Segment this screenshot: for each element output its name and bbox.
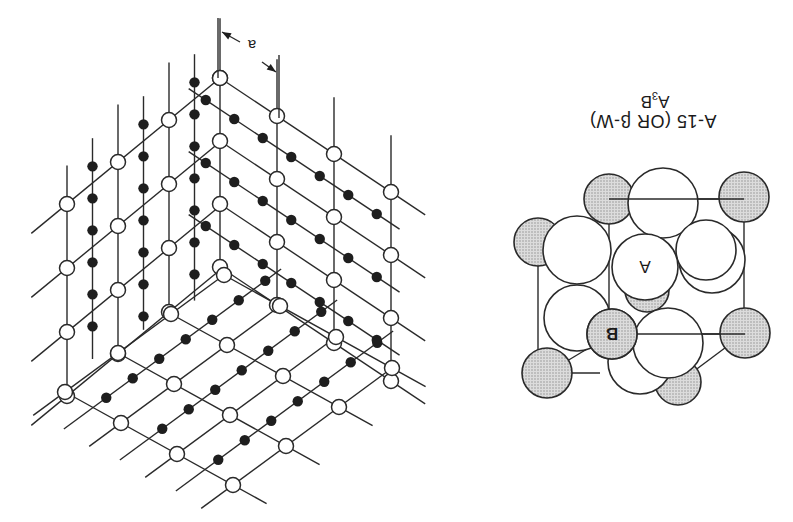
b-atom-node <box>111 283 126 298</box>
b-atom-node <box>162 177 177 192</box>
b-atom-node <box>213 134 228 149</box>
formula-subscript: 3 <box>652 90 658 102</box>
b-atom-node <box>270 172 285 187</box>
a-atom-dot <box>87 321 97 331</box>
a-atom-dot <box>319 377 329 387</box>
b-atom-node <box>279 439 294 454</box>
b-atom-node <box>384 311 399 326</box>
a-atom-dot <box>87 161 97 171</box>
a-atom-dot <box>316 307 326 317</box>
a-atom-dot <box>346 357 356 367</box>
a-atom-dot <box>138 215 148 225</box>
a-atom-dot <box>138 183 148 193</box>
b-atom-node <box>167 377 182 392</box>
a-chain-line <box>120 300 337 460</box>
a-atom-dot <box>207 315 217 325</box>
a-atom-dot <box>258 133 268 143</box>
a-atom-dot <box>138 247 148 257</box>
a-atom-dot <box>184 404 194 414</box>
b-atom-node <box>164 307 179 322</box>
b-atom-node <box>223 408 238 423</box>
a-atom-dot <box>229 177 239 187</box>
a-atom-dot <box>229 240 239 250</box>
formula-b: B <box>641 92 652 111</box>
a-atom-dot <box>343 253 353 263</box>
a-atom-dot <box>189 77 199 87</box>
a-atom-dot <box>290 326 300 336</box>
a-atom-dot <box>189 109 199 119</box>
a-atom-dot <box>263 346 273 356</box>
left-face-row-line <box>31 206 220 361</box>
b-atom-sphere <box>719 172 769 222</box>
b-atom-node <box>162 113 177 128</box>
b-atom-node <box>60 325 75 340</box>
a-atom-dot <box>229 114 239 124</box>
b-atom-sphere <box>720 308 770 358</box>
sphere-label: A <box>639 257 651 276</box>
a-atom-dot <box>258 259 268 269</box>
b-atom-sphere <box>522 348 572 398</box>
a-atom-dot <box>286 215 296 225</box>
a-atom-dot <box>260 276 270 286</box>
structure-title: A-15 (OR β-W) <box>558 110 748 132</box>
a-atom-dot <box>210 385 220 395</box>
a-atom-dot <box>87 225 97 235</box>
sphere-packing-model: ABB <box>514 168 770 405</box>
lattice-parameter-scale-bar: a <box>218 18 279 118</box>
b-atom-node <box>384 185 399 200</box>
formula-a: A <box>658 92 669 111</box>
a-atom-dot <box>372 209 382 219</box>
b-atom-node <box>270 235 285 250</box>
sphere-label-b: B <box>606 324 618 343</box>
b-atom-node <box>276 369 291 384</box>
b-atom-node <box>111 155 126 170</box>
a-atom-dot <box>154 354 164 364</box>
b-atom-node <box>114 416 129 431</box>
a-atom-dot <box>315 171 325 181</box>
a-atom-dot <box>293 396 303 406</box>
a-atom-dot <box>157 424 167 434</box>
a-atom-dot <box>286 278 296 288</box>
a-atom-dot <box>87 193 97 203</box>
a-atom-dot <box>189 173 199 183</box>
a-atom-dot <box>237 365 247 375</box>
b-atom-node <box>162 241 177 256</box>
a-atom-dot <box>87 289 97 299</box>
a-atom-dot <box>189 141 199 151</box>
a-atom-dot <box>87 257 97 267</box>
a-atom-dot <box>138 119 148 129</box>
a-atom-sphere <box>543 216 611 284</box>
figure-canvas: a ABB A3B A-15 (OR β-W) <box>0 0 793 522</box>
a-atom-dot <box>201 95 211 105</box>
a-atom-sphere <box>633 308 703 378</box>
b-atom-node <box>327 273 342 288</box>
a-atom-sphere <box>676 220 736 280</box>
a-atom-dot <box>372 338 382 348</box>
a-atom-dot <box>234 295 244 305</box>
a-atom-dot <box>343 316 353 326</box>
b-atom-node <box>58 385 73 400</box>
lattice-parameter-label: a <box>247 37 256 54</box>
a-atom-dot <box>138 311 148 321</box>
b-atom-node <box>332 400 347 415</box>
a-atom-dot <box>189 269 199 279</box>
a-atom-dot <box>189 205 199 215</box>
a-atom-dot <box>343 190 353 200</box>
a-atom-dot <box>138 279 148 289</box>
a-atom-dot <box>315 297 325 307</box>
b-atom-node <box>384 248 399 263</box>
a-atom-dot <box>258 196 268 206</box>
a-atom-dot <box>266 416 276 426</box>
b-atom-node <box>329 330 344 345</box>
b-atom-node <box>111 346 126 361</box>
a-atom-dot <box>240 435 250 445</box>
crystal-structure-diagram: a ABB <box>0 0 793 522</box>
a-atom-dot <box>138 151 148 161</box>
a-atom-dot <box>128 373 138 383</box>
b-atom-node <box>170 447 185 462</box>
b-atom-node-corner <box>213 71 228 86</box>
b-atom-nodes <box>58 71 400 493</box>
b-atom-node <box>327 147 342 162</box>
b-atom-node <box>111 219 126 234</box>
b-atom-node <box>220 338 235 353</box>
